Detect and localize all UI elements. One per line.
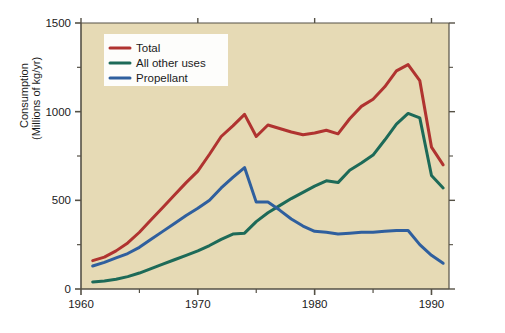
y-tick-label: 1000 bbox=[45, 106, 71, 118]
chart-figure: 050010001500 1960197019801990 Consumptio… bbox=[0, 0, 505, 333]
y-axis-title-line2: (Millions of kg/yr) bbox=[30, 57, 42, 140]
y-tick-label: 500 bbox=[52, 194, 71, 206]
y-tick-label: 0 bbox=[65, 283, 71, 295]
x-tick-label: 1980 bbox=[302, 298, 328, 310]
x-tick-label: 1960 bbox=[68, 298, 94, 310]
consumption-line-chart: 050010001500 1960197019801990 Consumptio… bbox=[0, 0, 505, 333]
legend-label-all-other-uses: All other uses bbox=[136, 57, 206, 69]
x-tick-label: 1970 bbox=[185, 298, 211, 310]
legend-label-total: Total bbox=[136, 42, 160, 54]
legend-label-propellant: Propellant bbox=[136, 72, 189, 84]
chart-legend: TotalAll other usesPropellant bbox=[104, 34, 228, 86]
x-tick-label: 1990 bbox=[419, 298, 445, 310]
y-tick-label: 1500 bbox=[45, 17, 71, 29]
y-axis-title-line1: Consumption bbox=[18, 63, 30, 128]
